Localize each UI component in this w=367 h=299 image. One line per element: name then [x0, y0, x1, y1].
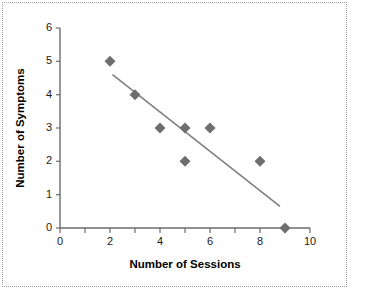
y-axis-title: Number of Symptoms	[14, 68, 26, 188]
y-tick-label: 2	[46, 154, 52, 166]
x-tick-label: 0	[57, 235, 63, 247]
y-tick-label: 5	[46, 54, 52, 66]
data-point-marker	[155, 123, 166, 134]
plot-canvas: 0123456 0246810 Number of Sessions Numbe…	[0, 0, 367, 299]
data-point-marker	[130, 89, 141, 100]
x-tick-label: 10	[304, 235, 316, 247]
x-axis-title: Number of Sessions	[129, 258, 240, 270]
y-tick-label: 3	[46, 121, 52, 133]
scatter-plot-figure: 0123456 0246810 Number of Sessions Numbe…	[0, 0, 367, 299]
y-tick-label: 6	[46, 21, 52, 33]
x-axis: 0246810	[57, 228, 316, 247]
data-point-marker	[280, 223, 291, 234]
x-tick-label: 4	[157, 235, 163, 247]
data-markers	[105, 56, 291, 234]
y-axis: 0123456	[46, 21, 60, 233]
data-point-marker	[180, 156, 191, 167]
data-point-marker	[105, 56, 116, 67]
data-point-marker	[180, 123, 191, 134]
x-tick-label: 2	[107, 235, 113, 247]
y-tick-label: 1	[46, 188, 52, 200]
data-point-marker	[205, 123, 216, 134]
x-tick-label: 8	[257, 235, 263, 247]
y-tick-label: 0	[46, 221, 52, 233]
x-tick-label: 6	[207, 235, 213, 247]
data-point-marker	[255, 156, 266, 167]
y-tick-label: 4	[46, 88, 52, 100]
